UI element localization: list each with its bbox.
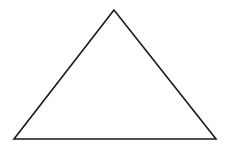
diagram-canvas [0,0,227,150]
triangle-diagram [0,0,227,150]
triangle-shape [14,10,216,139]
